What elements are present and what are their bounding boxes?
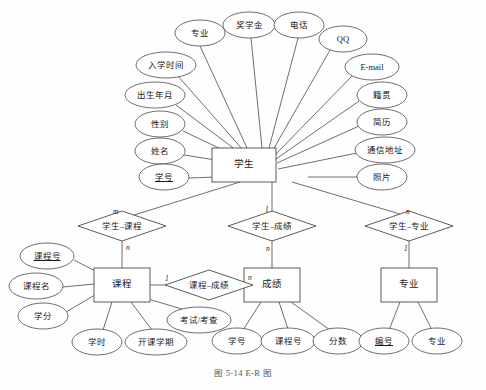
attribute-attr-course-no[interactable] [20, 243, 74, 269]
attribute-attr-major-of-student[interactable] [175, 20, 225, 46]
attribute-attr-birth-date[interactable] [125, 82, 185, 108]
relationship-student-major[interactable] [365, 211, 453, 241]
line-major-no [389, 302, 400, 330]
attribute-attr-enroll-time[interactable] [136, 52, 196, 78]
line-major-name [418, 302, 432, 330]
line-student-enroll-time [178, 76, 243, 150]
attribute-attr-grade-course-no[interactable] [261, 328, 315, 354]
attribute-attr-exam-type[interactable] [167, 307, 231, 333]
attribute-attr-email[interactable] [345, 54, 399, 80]
relationship-student-grade[interactable] [228, 211, 316, 241]
attribute-attr-class-hours[interactable] [72, 329, 122, 355]
entity-student[interactable] [212, 148, 276, 182]
attribute-attr-address[interactable] [355, 137, 415, 163]
attribute-attr-qq[interactable] [319, 26, 367, 52]
line-exam-type [145, 298, 185, 310]
attribute-attr-gender[interactable] [135, 111, 185, 137]
attribute-attr-resume[interactable] [357, 109, 407, 135]
figure-caption: 图 5-14 E-R 图 [0, 366, 486, 378]
attribute-attr-course-name[interactable] [9, 273, 63, 299]
attribute-attr-native-place[interactable] [357, 82, 407, 108]
line-grade-student-no [243, 302, 261, 330]
relationship-student-course[interactable] [78, 211, 166, 241]
attribute-attr-photo[interactable] [357, 164, 407, 190]
attribute-attr-credit[interactable] [18, 303, 68, 329]
line-class-hours [103, 302, 112, 330]
relationship-course-grade[interactable] [165, 270, 253, 300]
line-grade-course-no [279, 302, 288, 329]
line-open-term [131, 302, 152, 330]
line-student-native-place [276, 101, 359, 159]
er-diagram-canvas [0, 0, 486, 390]
attribute-attr-scholarship[interactable] [223, 12, 275, 38]
attribute-attr-grade-student-no[interactable] [212, 328, 262, 354]
line-student-major-attr [200, 46, 247, 148]
line-student-resume [277, 126, 359, 163]
attribute-attr-major-name[interactable] [412, 328, 462, 354]
entity-major[interactable] [381, 268, 437, 302]
line-course-name [63, 284, 94, 287]
line-grade-score [291, 302, 330, 330]
line-student-scholarship [251, 38, 262, 148]
attribute-attr-name[interactable] [135, 138, 185, 164]
attribute-attr-phone[interactable] [274, 12, 324, 38]
attribute-attr-score[interactable] [313, 328, 363, 354]
attribute-attr-student-no[interactable] [139, 164, 189, 190]
er-diagram: 学生课程成绩专业学生–课程学生–成绩课程–成绩学生–专业专业入学时间出生年月性别… [0, 0, 486, 390]
attribute-attr-major-no[interactable] [359, 328, 409, 354]
entity-course[interactable] [94, 268, 150, 302]
line-student-email [275, 76, 352, 155]
attribute-attr-open-term[interactable] [125, 329, 187, 355]
line-student-address [278, 153, 357, 169]
